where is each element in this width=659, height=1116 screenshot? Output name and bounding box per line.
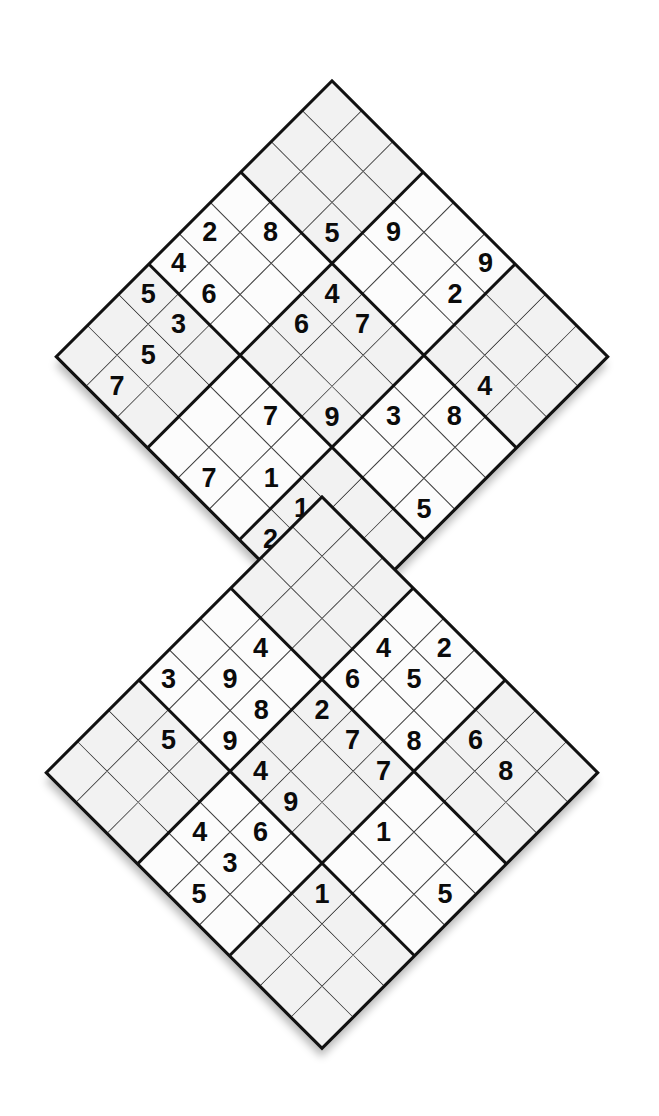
top-grid-cells: 99254847826346955375118772 — [332, 80, 608, 356]
bottom-value-r8-c8 — [301, 995, 343, 1037]
bottom-grid-cells: 2456868427798153949561435 — [322, 496, 598, 772]
sudoku-grid-bottom[interactable]: 2456868427798153949561435 — [46, 496, 598, 1048]
sudoku-page: 99254847826346955375118772 2456868427798… — [0, 0, 659, 1116]
